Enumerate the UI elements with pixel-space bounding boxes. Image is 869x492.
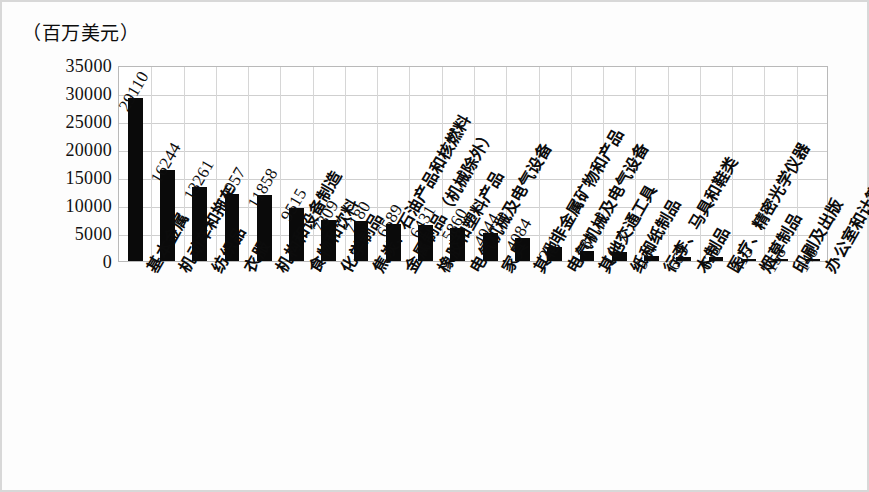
x-axis-category-label: 烟草制品 (753, 264, 774, 276)
chart-page: （百万美元） 350003000025000200001500010000500… (0, 0, 869, 492)
x-axis-category-label: 基本金属 (140, 264, 161, 276)
x-axis-category-label: 其他非金属矿物和产品 (527, 264, 548, 276)
y-axis-tick: 30000 (66, 84, 113, 105)
x-axis-category-label: 化学制品 (334, 264, 355, 276)
x-axis-category-label: 食物和饮料 (302, 264, 323, 276)
x-axis-category-labels: 基本金属机动车和拖车纺织品衣服机构和设备制造食物和饮料化学制品焦炭、石油产品和核… (118, 264, 828, 484)
y-axis-tick: 15000 (66, 168, 113, 189)
x-axis-category-label: 金属制品（机械除外） (398, 264, 419, 276)
x-axis-category-label: 电气机械及电气设备 (463, 264, 484, 276)
bar (128, 98, 143, 261)
x-axis-category-label: 电气机械及电气设备 (560, 264, 581, 276)
x-axis-category-label: 行李、马具和鞋类 (657, 264, 678, 276)
x-axis-category-label: 橡胶和塑料产品 (431, 264, 452, 276)
x-axis-category-label: 其他交通工具 (592, 264, 613, 276)
x-axis-category-label: 纺织品 (205, 264, 226, 276)
y-axis-tick-labels: 35000300002500020000150001000050000 (34, 58, 112, 266)
x-axis-category-label: 机动车和拖车 (172, 264, 193, 276)
x-axis-category-label: 焦炭、石油产品和核燃料 (366, 264, 387, 276)
x-axis-category-label: 机构和设备制造 (269, 264, 290, 276)
x-axis-category-label: 家具 (495, 264, 516, 276)
y-axis-tick: 5000 (75, 224, 112, 245)
x-axis-category-label: 木制品 (689, 264, 710, 276)
y-axis-tick: 10000 (66, 196, 113, 217)
x-axis-category-label: 办公室和计算机机械 (818, 264, 839, 276)
y-axis-tick: 20000 (66, 140, 113, 161)
y-axis-tick: 0 (103, 252, 112, 273)
x-axis-category-label: 印刷及出版 (786, 264, 807, 276)
y-axis-tick: 35000 (66, 56, 113, 77)
x-axis-category-label: 医疗、精密光学仪器 (721, 264, 742, 276)
y-axis-tick: 25000 (66, 112, 113, 133)
x-axis-category-label: 纸和纸制品 (624, 264, 645, 276)
x-axis-category-label: 衣服 (237, 264, 258, 276)
y-axis-unit-title: （百万美元） (22, 18, 139, 45)
